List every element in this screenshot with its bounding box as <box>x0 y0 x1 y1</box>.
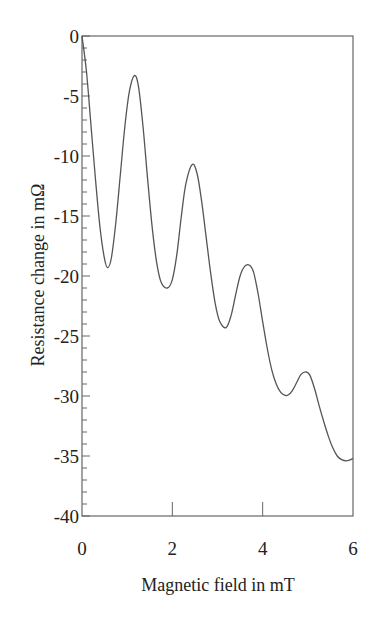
y-tick-label: -35 <box>54 446 79 467</box>
chart: 0-5-10-15-20-25-30-35-40 0246 Magnetic f… <box>0 0 386 619</box>
y-tick-label: -40 <box>54 506 79 527</box>
y-tick-label: -15 <box>54 206 79 227</box>
y-tick-label: -5 <box>63 86 79 107</box>
x-tick-label: 6 <box>348 538 358 559</box>
y-tick-label: -10 <box>54 146 79 167</box>
x-axis-tick-labels: 0246 <box>77 538 358 559</box>
y-tick-label: -20 <box>54 266 79 287</box>
x-tick-label: 4 <box>258 538 268 559</box>
x-axis-ticks <box>172 502 262 516</box>
y-tick-label: -30 <box>54 386 79 407</box>
y-axis-title: Resistance change in mΩ <box>28 184 48 367</box>
plot-border <box>82 36 353 516</box>
y-axis-tick-labels: 0-5-10-15-20-25-30-35-40 <box>54 26 79 527</box>
y-tick-label: 0 <box>70 26 80 47</box>
x-tick-label: 0 <box>77 538 87 559</box>
resistance-curve <box>82 36 353 461</box>
x-tick-label: 2 <box>168 538 178 559</box>
y-tick-label: -25 <box>54 326 79 347</box>
x-axis-title: Magnetic field in mT <box>141 575 294 595</box>
plot-frame <box>82 36 353 516</box>
y-axis-ticks <box>82 36 90 516</box>
